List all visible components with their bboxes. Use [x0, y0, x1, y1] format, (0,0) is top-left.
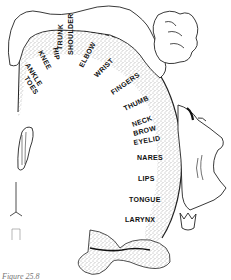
face-outline — [178, 105, 226, 210]
label-lips: LIPS — [138, 175, 155, 182]
tick-mark-small — [12, 229, 20, 240]
label-shoulder: SHOULDER — [67, 13, 74, 55]
hand-outline — [153, 11, 198, 63]
figure-caption: Figure 25.8 — [1, 272, 39, 280]
label-trunk: TRUNK — [56, 24, 64, 50]
label-tongue: TONGUE — [129, 196, 161, 203]
label-larynx: LARYNX — [125, 216, 155, 223]
label-thumb: THUMB — [122, 94, 149, 112]
homunculus-diagram: KNEEHIPANKLETOESTRUNKSHOULDERELBOWWRISTF… — [0, 0, 231, 280]
tick-mark — [10, 182, 22, 216]
larynx-shape — [180, 213, 196, 230]
label-nares: NARES — [137, 154, 163, 161]
